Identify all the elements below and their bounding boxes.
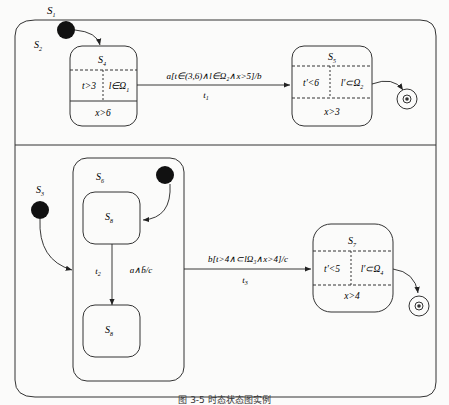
initial-state-s2: [57, 21, 75, 39]
final-state-s3: [409, 296, 429, 316]
t3-name: t3: [242, 275, 248, 286]
initial-state-s6: [156, 166, 174, 184]
s4-location-condition: l∈Ω1: [109, 81, 130, 93]
svg-text:S4: S4: [98, 54, 106, 67]
label-s2: S2: [34, 39, 42, 52]
state-s6: [73, 158, 184, 381]
s5-var-condition: x>3: [323, 107, 340, 117]
final-state-s2: [397, 89, 417, 109]
s5-location-condition: l′⊂Ω2: [341, 78, 364, 90]
final-transition-s5: [372, 81, 403, 90]
s7-time-condition: t′<5: [324, 264, 340, 274]
initial-transition-s3: [40, 219, 72, 270]
label-s1: S1: [47, 4, 56, 18]
svg-text:S5: S5: [328, 51, 336, 64]
svg-text:S7: S7: [348, 235, 357, 248]
t2-label: a∧b̄/c: [130, 265, 153, 275]
label-s3: S3: [36, 184, 44, 197]
initial-state-s3: [31, 201, 49, 219]
t3-label: b[t>4∧⊂lΩ₃∧x>4]/c: [208, 254, 288, 264]
statechart-diagram: S1 S2 S3 S4 t>3 l∈Ω1 x>6 a[t∈(3,6)∧l∈Ω₂∧…: [0, 0, 449, 405]
t2-name: t2: [95, 266, 101, 277]
t1-label: a[t∈(3,6)∧l∈Ω₂∧x>5]/b: [167, 71, 262, 81]
label-s6: S6: [96, 171, 104, 184]
final-transition-s7: [393, 269, 418, 293]
initial-transition-s2: [75, 30, 100, 45]
svg-text:S8: S8: [105, 324, 113, 337]
svg-text:S8: S8: [105, 211, 113, 224]
t1-name: t1: [203, 90, 209, 101]
s5-time-condition: t′<6: [303, 78, 319, 88]
s7-var-condition: x>4: [343, 291, 360, 301]
figure-caption: 图 3-5 时态状态图实例: [0, 393, 449, 405]
s7-location-condition: l′⊂Ω4: [361, 264, 384, 276]
s4-var-condition: x>6: [94, 108, 111, 118]
s4-time-condition: t>3: [82, 81, 96, 91]
